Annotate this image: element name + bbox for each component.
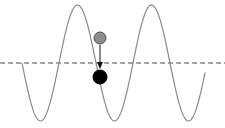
waveform-figure xyxy=(0,0,225,128)
gray-particle-marker xyxy=(94,32,106,44)
black-particle-marker xyxy=(93,70,107,84)
waveform-canvas xyxy=(0,0,225,128)
figure-background xyxy=(0,0,225,128)
